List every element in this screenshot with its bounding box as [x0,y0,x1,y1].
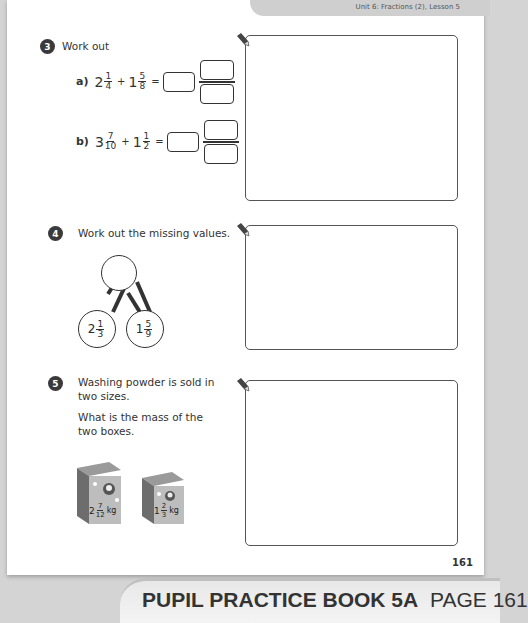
whole-number: 1 [129,74,138,90]
answer-fraction-input [203,120,239,164]
equals-sign: = [151,76,159,87]
answer-whole-input[interactable] [167,132,199,152]
question-5-question-line1: What is the mass of the [78,410,203,424]
answer-whole-input[interactable] [163,72,195,92]
question-4-prompt: Work out the missing values. [78,226,230,240]
equals-sign: = [155,136,163,147]
whole-number: 1 [133,134,142,150]
fraction: 58 [138,72,146,91]
large-washing-powder-box: 2 712 kg [75,462,123,524]
working-box-q4[interactable] [245,225,458,350]
header-strip: Unit 6: Fractions (2), Lesson 5 [250,0,490,16]
book-page-label: PAGE 161 [430,588,528,611]
question-number-badge: 5 [48,376,63,391]
plus-operator: + [121,136,129,147]
answer-numerator-input[interactable] [200,60,234,80]
fraction: 710 [105,132,116,151]
whole-number: 3 [95,134,104,150]
question-3a-equation: a) 2 14 + 1 58 = [76,60,235,104]
plus-operator: + [117,76,125,87]
whole-number: 2 [94,74,103,90]
question-3-prompt: Work out [62,39,109,53]
answer-numerator-input[interactable] [204,120,238,140]
answer-denominator-input[interactable] [204,144,238,164]
book-title: PUPIL PRACTICE BOOK 5A [142,588,418,611]
question-number-badge: 4 [48,226,63,241]
part-label: b) [76,135,89,148]
fraction: 12 [143,132,151,151]
pencil-icon [235,222,251,238]
whole-circle-empty[interactable] [101,255,137,291]
pencil-icon [235,32,251,48]
question-5-prompt-line1: Washing powder is sold in [78,375,214,389]
fraction: 14 [104,72,112,91]
working-box-q3[interactable] [245,35,458,201]
part-label: a) [76,75,88,88]
question-3b-equation: b) 3 710 + 1 12 = [76,120,239,164]
question-number-badge: 3 [40,39,55,54]
part-circle-2: 1 59 [126,310,164,348]
question-5-question-line2: two boxes. [78,424,134,438]
page-number: 161 [452,557,473,568]
footer-banner-text: PUPIL PRACTICE BOOK 5A PAGE 161 [142,588,528,612]
part-circle-1: 2 13 [78,310,116,348]
pencil-icon [235,377,251,393]
answer-denominator-input[interactable] [200,84,234,104]
working-box-q5[interactable] [245,380,458,546]
question-5-prompt-line2: two sizes. [78,389,130,403]
small-washing-powder-box: 1 23 kg [140,472,186,524]
unit-lesson-label: Unit 6: Fractions (2), Lesson 5 [356,3,460,11]
answer-fraction-input [199,60,235,104]
